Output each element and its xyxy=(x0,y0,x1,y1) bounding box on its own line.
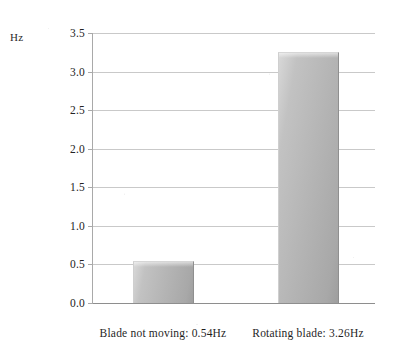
x-axis-category-label: Rotating blade: 3.26Hz xyxy=(252,327,363,339)
y-axis-tick-mark xyxy=(88,303,93,304)
y-axis-tick-mark xyxy=(88,33,93,34)
y-axis-tick-label: 0.0 xyxy=(70,297,85,309)
y-axis-tick-mark xyxy=(88,187,93,188)
bar-highlight xyxy=(279,53,338,58)
bar xyxy=(133,261,194,303)
x-axis-line xyxy=(92,303,375,304)
y-axis-line xyxy=(92,33,93,304)
y-axis-tick-mark xyxy=(88,149,93,150)
bar-highlight xyxy=(134,262,193,267)
y-axis-tick-label: 1.5 xyxy=(70,181,85,193)
y-axis-tick-label: 3.0 xyxy=(70,66,85,78)
y-axis-tick-label: 2.5 xyxy=(70,104,85,116)
y-axis-tick-label: 0.5 xyxy=(70,258,85,270)
y-axis-tick-mark xyxy=(88,226,93,227)
y-axis-tick-label: 1.0 xyxy=(70,220,85,232)
x-axis-category-label: Blade not moving: 0.54Hz xyxy=(100,327,227,339)
y-axis-unit-label: Hz xyxy=(10,31,23,43)
gridline xyxy=(92,33,375,34)
y-axis-tick-mark xyxy=(88,110,93,111)
y-axis-tick-label: 3.5 xyxy=(70,27,85,39)
bar xyxy=(278,52,339,303)
bar-chart: Hz 3.53.02.52.01.51.00.50.0 Blade not mo… xyxy=(0,0,402,353)
y-axis-tick-mark xyxy=(88,72,93,73)
y-axis-tick-mark xyxy=(88,264,93,265)
plot-area: 3.53.02.52.01.51.00.50.0 xyxy=(92,33,375,303)
y-axis-tick-label: 2.0 xyxy=(70,143,85,155)
